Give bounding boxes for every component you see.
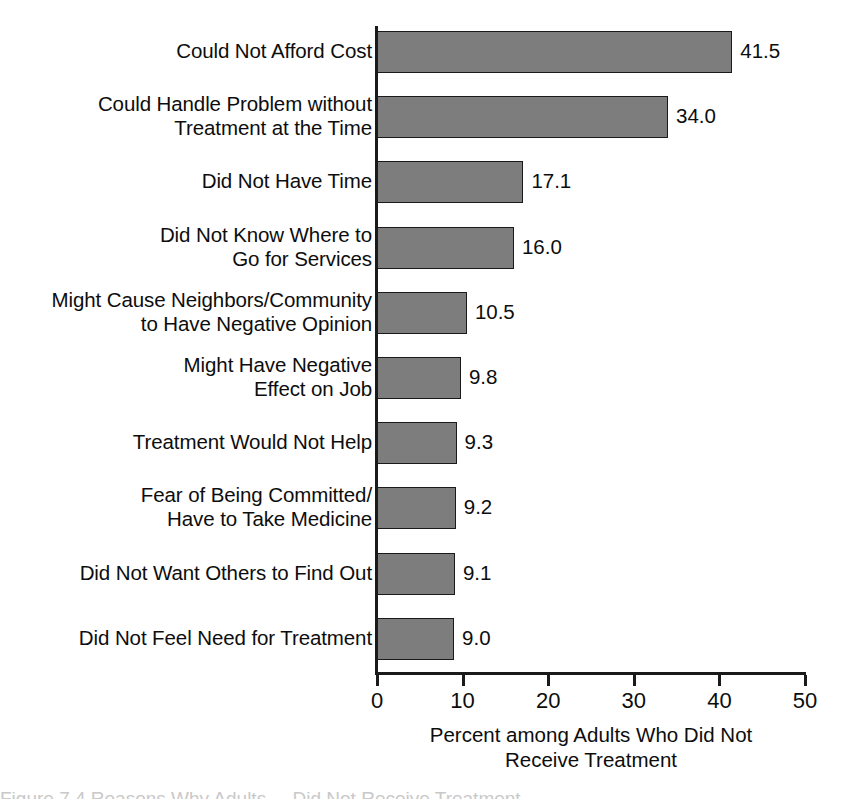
x-axis-tick: [633, 675, 636, 686]
x-axis-tick: [547, 675, 550, 686]
bar-value-label: 34.0: [676, 104, 716, 128]
bar-category-label: Did Not Know Where to Go for Services: [12, 223, 372, 271]
bar-value-label: 9.3: [465, 430, 494, 454]
bar-value-label: 41.5: [740, 39, 780, 63]
bar-row: Fear of Being Committed/ Have to Take Me…: [0, 487, 851, 529]
x-axis-title: Percent among Adults Who Did Not Receive…: [375, 722, 807, 772]
bar-category-label: Treatment Would Not Help: [12, 430, 372, 454]
bar-row: Treatment Would Not Help9.3: [0, 422, 851, 464]
bar-category-label: Might Cause Neighbors/Community to Have …: [12, 288, 372, 336]
bar-value-label: 16.0: [522, 235, 562, 259]
bar-category-label: Could Handle Problem without Treatment a…: [12, 92, 372, 140]
x-axis-tick: [376, 675, 379, 686]
x-axis-tick-label: 0: [347, 688, 407, 714]
bar: [377, 553, 455, 595]
bar-row: Could Handle Problem without Treatment a…: [0, 96, 851, 138]
x-axis-tick-label: 10: [433, 688, 493, 714]
x-axis-tick-label: 30: [604, 688, 664, 714]
bar: [377, 487, 456, 529]
bar: [377, 357, 461, 399]
x-axis-tick: [718, 675, 721, 686]
x-axis-tick: [462, 675, 465, 686]
y-axis-line: [375, 26, 378, 674]
bar-category-label: Fear of Being Committed/ Have to Take Me…: [12, 483, 372, 531]
bar: [377, 618, 454, 660]
bar: [377, 422, 457, 464]
bar-category-label: Did Not Want Others to Find Out: [12, 561, 372, 585]
bar: [377, 292, 467, 334]
bar-value-label: 9.0: [462, 626, 491, 650]
x-axis-line: [375, 672, 806, 675]
bar-chart-plot-area: Could Not Afford Cost41.5Could Handle Pr…: [0, 0, 851, 799]
bar-category-label: Could Not Afford Cost: [12, 39, 372, 63]
bar-category-label: Did Not Have Time: [12, 169, 372, 193]
bar-row: Did Not Feel Need for Treatment9.0: [0, 618, 851, 660]
x-axis-tick: [804, 675, 807, 686]
bar-row: Might Have Negative Effect on Job9.8: [0, 357, 851, 399]
bar-value-label: 10.5: [475, 300, 515, 324]
x-axis-tick-label: 50: [775, 688, 835, 714]
bar-row: Might Cause Neighbors/Community to Have …: [0, 292, 851, 334]
bar-category-label: Might Have Negative Effect on Job: [12, 353, 372, 401]
bar-category-label: Did Not Feel Need for Treatment: [12, 626, 372, 650]
bar-value-label: 17.1: [531, 169, 571, 193]
bar-row: Did Not Know Where to Go for Services16.…: [0, 227, 851, 269]
figure-container: Could Not Afford Cost41.5Could Handle Pr…: [0, 0, 851, 799]
bar-row: Did Not Have Time17.1: [0, 161, 851, 203]
bar: [377, 31, 732, 73]
x-axis-tick-label: 40: [689, 688, 749, 714]
bar-value-label: 9.2: [464, 495, 493, 519]
bar-value-label: 9.8: [469, 365, 498, 389]
x-axis-tick-label: 20: [518, 688, 578, 714]
bar: [377, 227, 514, 269]
bar-row: Did Not Want Others to Find Out9.1: [0, 553, 851, 595]
bar-row: Could Not Afford Cost41.5: [0, 31, 851, 73]
bar-value-label: 9.1: [463, 561, 492, 585]
bar: [377, 161, 523, 203]
bar: [377, 96, 668, 138]
caption-sliver: Figure 7.4 Reasons Why Adults ... Did No…: [0, 788, 851, 799]
